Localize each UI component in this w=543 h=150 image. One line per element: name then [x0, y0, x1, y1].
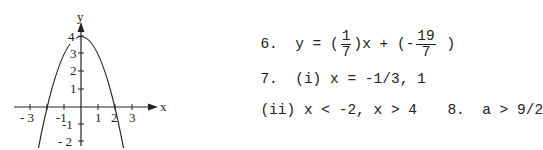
x-axis-label: x — [160, 100, 167, 113]
parabola-graph: y x 4 3 2 1 -1 - 2 - 3 -1 1 2 3 — [0, 0, 180, 150]
y-tick-label-4: 4 — [68, 30, 75, 43]
x-tick-label-2: 2 — [111, 111, 118, 124]
x-axis-arrow-icon — [148, 104, 158, 111]
answer-6-prefix: y = ( — [295, 36, 339, 52]
answer-7-i: 7. (i) x = -1/3, 1 — [243, 55, 426, 87]
answer-6: 6. y = (17)x + (-197 ) — [243, 13, 455, 60]
answer-8-number: 8. — [447, 102, 464, 118]
x-tick-label-neg1: -1 — [56, 111, 67, 124]
answer-6-suffix: ) — [446, 36, 455, 52]
answer-7-ii: (ii) x < -2, x > 4 — [243, 86, 417, 118]
x-tick-label-3: 3 — [129, 111, 136, 124]
x-tick-label-neg3: - 3 — [20, 111, 34, 124]
y-axis-label: y — [77, 10, 84, 23]
graph-svg — [0, 0, 180, 150]
y-tick-label-1: 1 — [70, 82, 77, 95]
y-tick-label-3: 3 — [70, 47, 77, 60]
y-tick-label-neg2: - 2 — [58, 135, 72, 148]
x-tick-label-1: 1 — [95, 111, 102, 124]
answer-8: 8. a > 9/2 — [430, 86, 543, 118]
answer-7-part-i: (i) x = -1/3, 1 — [295, 71, 426, 87]
answer-6-number: 6. — [260, 36, 277, 52]
answer-7-number: 7. — [260, 71, 277, 87]
answer-8-text: a > 9/2 — [482, 102, 543, 118]
answer-7-part-ii: (ii) x < -2, x > 4 — [260, 102, 417, 118]
y-tick-label-2: 2 — [70, 64, 77, 77]
answer-6-middle: )x + (- — [353, 36, 414, 52]
